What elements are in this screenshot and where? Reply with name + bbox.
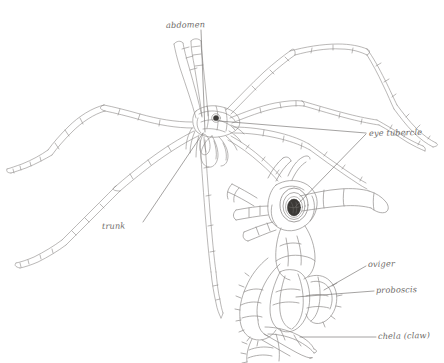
leader-proboscis [296, 291, 374, 297]
spider-legs-group [7, 39, 438, 318]
illustration-canvas [0, 0, 444, 363]
label-proboscis: proboscis [376, 284, 417, 295]
label-oviger: oviger [368, 258, 395, 269]
cephalon-detail-group [227, 156, 388, 363]
label-abdomen: abdomen [166, 19, 205, 30]
leader-abdomen [201, 30, 205, 132]
label-trunk: trunk [102, 221, 126, 231]
sea-spider-illustration: abdomen eye tubercle trunk oviger probos… [0, 0, 444, 363]
label-chela-claw: chela (claw) [378, 330, 430, 341]
spider-trunk-group [186, 106, 244, 167]
leader-trunk [143, 133, 203, 222]
leader-oviger [324, 266, 366, 290]
leader-eye-tubercle-detail [295, 134, 366, 207]
label-eye-tubercle: eye tubercle [369, 127, 423, 138]
